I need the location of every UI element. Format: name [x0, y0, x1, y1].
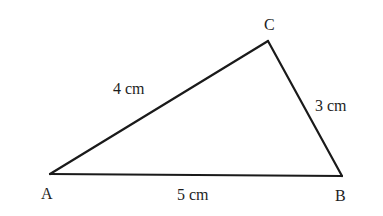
side-ab-line [50, 174, 342, 176]
triangle-diagram: A B C 4 cm 3 cm 5 cm [0, 0, 383, 216]
vertex-c-label: C [264, 16, 275, 33]
side-ab-length-label: 5 cm [177, 186, 209, 203]
side-ac-line [50, 41, 268, 174]
vertex-a-label: A [41, 185, 53, 202]
side-cb-length-label: 3 cm [315, 97, 347, 114]
side-ac-length-label: 4 cm [113, 80, 145, 97]
vertex-b-label: B [335, 187, 346, 204]
